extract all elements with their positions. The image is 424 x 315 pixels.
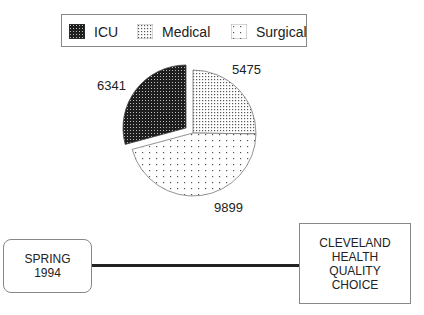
connector-line bbox=[92, 264, 299, 267]
legend-item-icu: ICU bbox=[69, 15, 118, 48]
pie-slice-medical bbox=[193, 70, 256, 134]
legend-label-surgical: Surgical bbox=[256, 24, 307, 40]
legend-label-medical: Medical bbox=[162, 24, 210, 40]
chart-legend: ICU Medical Surgical bbox=[61, 14, 307, 47]
legend-label-icu: ICU bbox=[94, 24, 118, 40]
medical-swatch-icon bbox=[137, 24, 153, 39]
medical-value-label: 5475 bbox=[232, 62, 261, 77]
cleveland-health-quality-choice-text: CLEVELAND HEALTH QUALITY CHOICE bbox=[319, 236, 390, 292]
spring-1994-box: SPRING 1994 bbox=[3, 239, 92, 293]
surgical-value-label: 9899 bbox=[214, 200, 243, 215]
pie-slice-icu bbox=[123, 65, 186, 144]
surgical-swatch-icon bbox=[231, 24, 247, 39]
icu-swatch-icon bbox=[69, 24, 85, 39]
legend-item-medical: Medical bbox=[137, 15, 210, 48]
spring-1994-text: SPRING 1994 bbox=[24, 252, 70, 280]
icu-value-label: 6341 bbox=[97, 78, 126, 93]
cleveland-health-quality-choice-box: CLEVELAND HEALTH QUALITY CHOICE bbox=[299, 223, 411, 304]
legend-item-surgical: Surgical bbox=[231, 15, 307, 48]
pie-slice-surgical bbox=[132, 133, 256, 196]
